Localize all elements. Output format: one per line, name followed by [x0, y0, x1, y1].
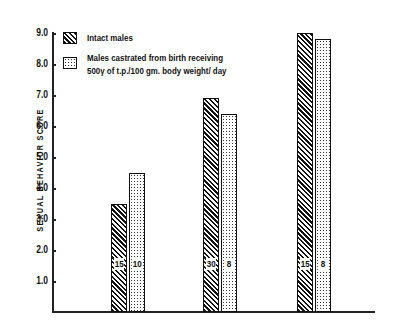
legend-label-castrated-line1: Males castrated from birth receiving [87, 52, 223, 65]
y-tick [52, 95, 56, 97]
bar-n-label: 30 [206, 258, 216, 270]
bar-n-label: 8 [318, 258, 328, 270]
y-tick [52, 64, 56, 66]
y-tick-label: 9.0 [24, 27, 48, 38]
y-tick [52, 281, 56, 283]
y-tick [52, 157, 56, 159]
bar-intact [297, 33, 313, 312]
y-axis-label: SEXUAL BEHAVIOR SCORE [35, 102, 45, 238]
bar-castrated [129, 173, 145, 313]
legend-label-intact: Intact males [87, 32, 133, 45]
bar-n-label: 10 [132, 258, 142, 270]
y-tick [52, 219, 56, 221]
y-tick-label: 2.0 [24, 244, 48, 255]
y-tick [52, 126, 56, 128]
y-tick [52, 250, 56, 252]
bar-intact [203, 98, 219, 312]
legend-label-castrated-line2: 500γ of t.p./100 gm. body weight/ day [87, 65, 227, 78]
bar-n-label: 15 [300, 258, 310, 270]
y-tick [52, 33, 56, 35]
bar-n-label: 15 [114, 258, 124, 270]
y-tick [52, 188, 56, 190]
bar-castrated [221, 114, 237, 312]
y-axis [52, 32, 54, 312]
legend-swatch-castrated [63, 57, 77, 69]
y-tick-label: 8.0 [24, 58, 48, 69]
y-tick-label: 7.0 [24, 89, 48, 100]
bar-n-label: 8 [224, 258, 234, 270]
bar-castrated [315, 39, 331, 312]
y-tick-label: 1.0 [24, 275, 48, 286]
legend-swatch-intact [63, 32, 77, 44]
